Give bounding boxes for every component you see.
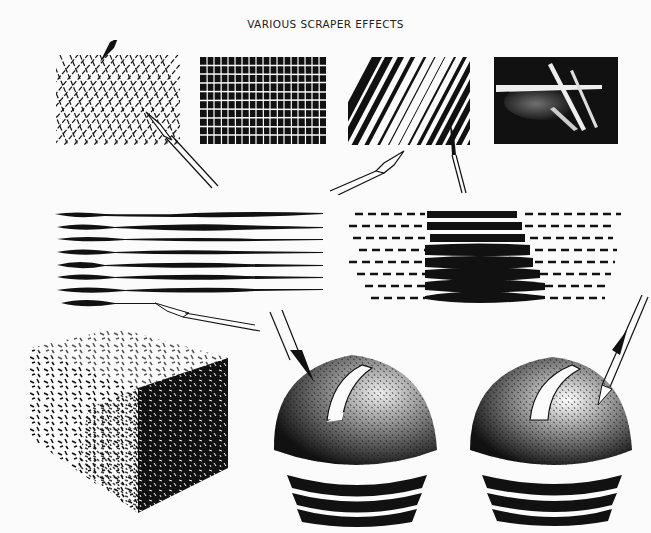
illustration-stippled-cube [28, 318, 238, 518]
page-title: VARIOUS SCRAPER EFFECTS [0, 18, 651, 30]
illustration-grid-blocks [200, 57, 326, 144]
illustration-diagonal-lines [328, 55, 478, 195]
illustration-light-streaks [494, 57, 618, 144]
illustration-dome-left [262, 310, 452, 530]
illustration-dashed-lens [345, 207, 625, 307]
illustration-crosshatch [40, 40, 220, 190]
illustration-dome-right [462, 295, 651, 530]
